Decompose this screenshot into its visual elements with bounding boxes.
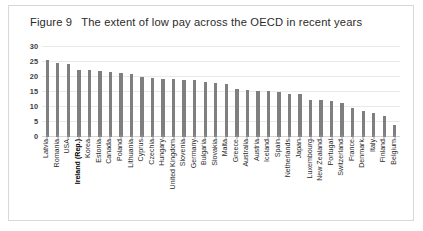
category-slot: Greece <box>232 139 243 225</box>
category-slot: New Zealand <box>316 139 327 225</box>
figure-title-text: The extent of low pay across the OECD in… <box>81 16 362 28</box>
x-axis-category-label: United Kingdom <box>170 139 177 189</box>
bar <box>140 77 143 137</box>
x-axis-category-label: Germany <box>191 139 198 168</box>
category-slot: Japan <box>295 139 306 225</box>
category-slot: Slovakia <box>211 139 222 225</box>
x-axis-category-label: Cyprus <box>139 139 146 161</box>
bar <box>46 60 49 137</box>
category-slot: Cyprus <box>137 139 148 225</box>
bar-slot <box>147 47 158 137</box>
x-axis-category-label: Canada <box>107 139 114 164</box>
category-slot: Spain <box>274 139 285 225</box>
bar <box>225 84 228 137</box>
bar-slot <box>200 47 211 137</box>
y-axis-tick-label: 25 <box>22 58 38 65</box>
category-slot: Ireland (Rep.) <box>74 139 85 225</box>
x-axis-category-label: Slovakia <box>212 139 219 166</box>
bar <box>246 90 249 137</box>
bar <box>288 94 291 137</box>
x-axis-category-label: Austria <box>254 139 261 161</box>
category-slot: Slovenia <box>179 139 190 225</box>
x-axis-category-label: Finland <box>381 139 388 162</box>
category-slot: Portugal <box>326 139 337 225</box>
category-slot: Netherlands <box>284 139 295 225</box>
category-slot: Lithuania <box>126 139 137 225</box>
category-slot: Czechia <box>147 139 158 225</box>
bar <box>309 100 312 137</box>
bar <box>77 70 80 137</box>
category-slot: Denmark <box>358 139 369 225</box>
bar-slot <box>358 47 369 137</box>
bar <box>151 78 154 137</box>
x-axis-category-label: Luxembourg <box>307 139 314 178</box>
bar-slot <box>305 47 316 137</box>
y-axis-tick-label: 30 <box>22 43 38 50</box>
category-slot: Estonia <box>95 139 106 225</box>
x-axis-category-label: Iceland <box>265 139 272 162</box>
bar <box>109 72 112 137</box>
bar-slot <box>232 47 243 137</box>
bar <box>161 79 164 138</box>
figure-caption: Figure 9The extent of low pay across the… <box>30 16 362 28</box>
bar-slot <box>221 47 232 137</box>
x-axis-category-label: Italy <box>370 139 377 152</box>
bar <box>256 91 259 138</box>
x-axis-category-label: New Zealand <box>318 139 325 181</box>
x-axis-category-label: Belgium <box>391 139 398 165</box>
x-axis-category-label: Denmark <box>360 139 367 168</box>
y-axis-tick-label: 15 <box>22 88 38 95</box>
bar <box>298 94 301 137</box>
bar-slot <box>84 47 95 137</box>
bar <box>319 100 322 137</box>
figure-number: Figure 9 <box>30 16 72 28</box>
bar-slot <box>253 47 264 137</box>
bar-slot <box>326 47 337 137</box>
x-axis-category-label: Korea <box>86 139 93 158</box>
x-axis-category-label: Japan <box>296 139 303 158</box>
category-slot: Canada <box>105 139 116 225</box>
y-axis-tick-labels: 051015202530 <box>20 47 38 137</box>
category-slot: Finland <box>379 139 390 225</box>
bar-slot <box>337 47 348 137</box>
bar <box>340 103 343 137</box>
bar-slot <box>295 47 306 137</box>
y-axis-tick-label: 20 <box>22 73 38 80</box>
category-slot: Romania <box>53 139 64 225</box>
bar-slot <box>137 47 148 137</box>
bar-slot <box>284 47 295 137</box>
x-axis-category-label: France <box>349 139 356 161</box>
bar-slot <box>105 47 116 137</box>
y-axis-tick-label: 0 <box>22 133 38 140</box>
bar <box>214 83 217 137</box>
x-axis-category-label: Czechia <box>149 139 156 165</box>
x-axis-category-label: Australia <box>244 139 251 167</box>
x-axis-category-label: Poland <box>117 139 124 161</box>
bar-slot <box>379 47 390 137</box>
x-axis-category-label: Latvia <box>44 139 51 158</box>
x-axis-category-label: Spain <box>275 139 282 157</box>
bar <box>88 70 91 137</box>
x-axis-category-label: Netherlands <box>286 139 293 177</box>
category-slot: Austria <box>253 139 264 225</box>
x-axis-category-label: Lithuania <box>128 139 135 168</box>
bar-slot <box>63 47 74 137</box>
x-axis-category-label: Malta <box>223 139 230 156</box>
x-axis-category-label: Ireland (Rep.) <box>75 139 82 184</box>
bar-slot <box>368 47 379 137</box>
bar-slot <box>274 47 285 137</box>
bar <box>67 64 70 137</box>
bar <box>172 79 175 137</box>
x-axis-category-label: Greece <box>233 139 240 162</box>
bar-slot <box>53 47 64 137</box>
category-slot: Luxembourg <box>305 139 316 225</box>
bar <box>362 111 365 137</box>
x-axis-category-label: Portugal <box>328 139 335 165</box>
bar <box>130 74 133 137</box>
category-slot: France <box>347 139 358 225</box>
bar <box>235 89 238 137</box>
x-axis-category-label: Estonia <box>96 139 103 163</box>
category-slot: Latvia <box>42 139 53 225</box>
bar-slot <box>242 47 253 137</box>
bar <box>56 63 59 137</box>
